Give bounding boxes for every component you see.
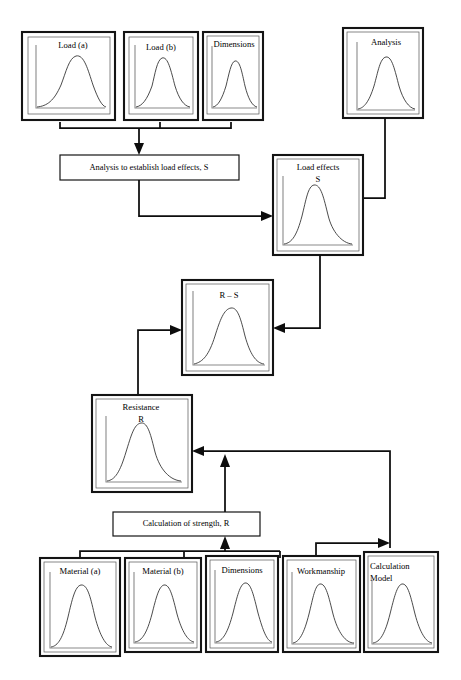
node-resistance-label-line1: Resistance	[123, 402, 160, 412]
node-resistance[interactable]: Resistance R	[92, 395, 192, 492]
node-analysis-process[interactable]: Analysis to establish load effects, S	[60, 155, 239, 180]
node-dimensions-top-label: Dimensions	[213, 39, 255, 49]
node-calculation-process-label: Calculation of strength, R	[143, 519, 230, 528]
node-r-minus-s[interactable]: R – S	[182, 280, 273, 375]
edge-analysis-to-load-effects	[139, 180, 273, 221]
node-load-effects-label-line1: Load effects	[297, 162, 340, 172]
node-analysis-label: Analysis	[371, 37, 402, 47]
flowchart-canvas: Load (a) Load (b) Dimensions Analysis	[0, 0, 461, 680]
node-workmanship[interactable]: Workmanship	[283, 556, 360, 652]
node-dimensions-top[interactable]: Dimensions	[203, 32, 263, 120]
node-load-effects[interactable]: Load effects S	[273, 155, 363, 255]
node-material-a[interactable]: Material (a)	[40, 558, 120, 656]
node-material-b-label: Material (b)	[142, 566, 183, 576]
edge-resistance-to-rs	[138, 325, 182, 395]
edge-load-effects-to-rs	[273, 255, 320, 333]
node-dimensions-bottom[interactable]: Dimensions	[206, 556, 278, 652]
node-load-a[interactable]: Load (a)	[22, 32, 115, 120]
node-analysis-process-label: Analysis to establish load effects, S	[90, 163, 209, 172]
node-calculation-model-label-line1: Calculation	[370, 561, 410, 571]
node-material-a-label: Material (a)	[60, 566, 101, 576]
node-calculation-model-label-line2: Model	[370, 573, 393, 583]
edge-bottom-bus-left	[80, 536, 280, 558]
node-load-b-label: Load (b)	[146, 42, 176, 52]
node-load-a-label: Load (a)	[58, 40, 87, 50]
flowchart-svg: Load (a) Load (b) Dimensions Analysis	[0, 0, 461, 680]
node-load-effects-label-line2: S	[316, 174, 321, 184]
edge-top-bus	[60, 122, 231, 155]
node-calculation-model[interactable]: Calculation Model	[364, 552, 438, 652]
node-calculation-process[interactable]: Calculation of strength, R	[113, 512, 260, 536]
node-load-b[interactable]: Load (b)	[124, 32, 198, 120]
node-resistance-label-line2: R	[138, 414, 144, 424]
edge-calc-process-to-resistance	[220, 454, 230, 512]
node-workmanship-label: Workmanship	[297, 566, 345, 576]
node-material-b[interactable]: Material (b)	[125, 558, 201, 652]
node-analysis[interactable]: Analysis	[343, 28, 423, 118]
node-dimensions-bottom-label: Dimensions	[221, 565, 263, 575]
node-r-minus-s-label: R – S	[219, 290, 238, 300]
